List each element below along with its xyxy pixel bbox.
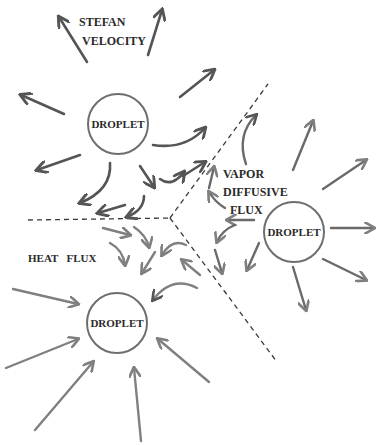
arrow-icon (153, 284, 197, 300)
boundary-left (28, 218, 170, 220)
arrow-icon (6, 339, 78, 368)
droplet-top-left: DROPLET (88, 94, 148, 154)
droplet-label: DROPLET (91, 118, 145, 130)
boundary-lower-right (170, 218, 277, 362)
arrow-icon (35, 362, 93, 430)
arrow-icon (80, 163, 110, 203)
arrow-icon (323, 160, 366, 189)
arrow-icon (293, 267, 306, 310)
vapor-flux-label-line2: DIFFUSIVE (223, 185, 288, 199)
arrow-icon (243, 115, 256, 164)
arrow-icon (134, 227, 149, 247)
arrow-icon (293, 121, 313, 170)
droplet-right: DROPLET (264, 202, 324, 262)
arrow-icon (162, 243, 186, 255)
stefan-velocity-label-line2: VELOCITY (82, 34, 146, 48)
diagram-svg: DROPLET DROPLET DROPLET STEFAN VELOCITY … (0, 0, 383, 446)
droplet-bottom-left: DROPLET (87, 293, 147, 353)
stefan-velocity-label-line1: STEFAN (79, 15, 126, 29)
arrow-icon (142, 252, 155, 273)
droplet-label: DROPLET (267, 226, 321, 238)
arrow-icon (103, 228, 130, 235)
droplet-flux-diagram: DROPLET DROPLET DROPLET STEFAN VELOCITY … (0, 0, 383, 446)
arrow-icon (182, 260, 200, 275)
arrow-icon (217, 225, 235, 242)
arrow-icon (140, 166, 154, 187)
arrow-icon (110, 243, 125, 265)
region-boundaries (28, 84, 277, 362)
arrow-icon (37, 155, 80, 170)
arrow-icon (134, 368, 141, 441)
arrow-icon (180, 70, 214, 97)
arrow-icon (209, 167, 214, 188)
arrow-icon (323, 259, 366, 280)
arrow-icon (127, 196, 144, 217)
arrow-icon (13, 289, 78, 304)
arrow-icon (158, 339, 209, 382)
vapor-flux-label-line3: FLUX (230, 203, 263, 217)
heat-flux-label: HEAT FLUX (28, 252, 96, 264)
vapor-flux-label-line1: VAPOR (223, 167, 264, 181)
arrow-icon (98, 205, 125, 213)
arrow-icon (148, 10, 162, 55)
arrow-icon (215, 250, 222, 273)
arrow-icon (153, 128, 205, 146)
arrow-icon (160, 172, 184, 182)
droplet-label: DROPLET (90, 317, 144, 329)
arrow-icon (247, 243, 259, 270)
arrow-icon (21, 95, 64, 114)
